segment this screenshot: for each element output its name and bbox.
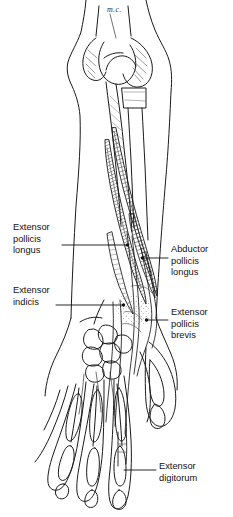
label-extensor-pollicis-brevis: Extensor pollicis brevis — [171, 307, 208, 342]
fingers-and-metacarpals — [35, 372, 131, 509]
label-extensor-pollicis-longus: Extensor pollicis longus — [13, 222, 50, 257]
ring-finger — [48, 382, 86, 499]
label-line: Extensor — [159, 461, 197, 473]
label-line: Extensor — [13, 222, 50, 234]
label-line: Abductor — [171, 244, 208, 256]
label-line: Extensor — [171, 307, 208, 319]
label-line: brevis — [171, 330, 208, 342]
label-line: Extensor — [13, 285, 50, 297]
leader-extensor-pollicis-longus — [62, 243, 129, 246]
label-line: pollicis — [171, 256, 208, 268]
hand-skin-outline — [45, 318, 177, 396]
label-line: pollicis — [171, 319, 208, 331]
label-line: digitorum — [159, 473, 197, 485]
label-line: longus — [171, 267, 208, 279]
leader-extensor-indicis — [56, 303, 125, 306]
label-extensor-indicis: Extensor indicis — [13, 285, 50, 308]
label-line: indicis — [13, 297, 50, 309]
little-finger — [35, 386, 68, 462]
label-line: pollicis — [13, 234, 50, 246]
mc-script-annotation: m.c. — [107, 5, 122, 14]
label-extensor-digitorum: Extensor digitorum — [159, 461, 197, 484]
thumb — [140, 342, 176, 429]
mc-annotation-leader — [110, 14, 116, 38]
label-abductor-pollicis-longus: Abductor pollicis longus — [171, 244, 208, 279]
label-line: longus — [13, 245, 50, 257]
